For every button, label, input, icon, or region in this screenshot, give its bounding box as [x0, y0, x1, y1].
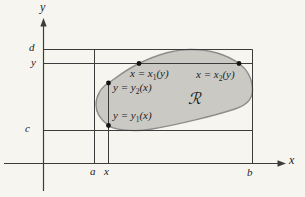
- point-y1-of-x: [106, 123, 111, 128]
- y-axis-label: y: [40, 1, 45, 13]
- region-symbol-label: ℛ: [188, 93, 201, 105]
- tick-label-d: d: [29, 41, 35, 53]
- point-x1-of-y: [137, 61, 142, 66]
- tick-label-b: b: [247, 166, 253, 178]
- tick-label-c: c: [25, 122, 30, 134]
- point-x2-of-y: [237, 61, 242, 66]
- curve-label-y2: y = y2(x): [113, 81, 152, 98]
- x-axis-label: x: [289, 154, 294, 166]
- curve-label-y1: y = y1(x): [113, 109, 152, 126]
- curve-label-x2: x = x2(y): [196, 68, 235, 85]
- x-axis-arrowhead: [278, 160, 287, 166]
- tick-label-x: x: [104, 165, 109, 177]
- figure-region-between-curves: y x d y c a x b x = x1(y) x = x2(y) y = …: [0, 0, 305, 197]
- diagram-canvas: [0, 0, 305, 197]
- y-axis-arrowhead: [40, 18, 46, 27]
- tick-label-a: a: [90, 165, 96, 177]
- tick-label-y: y: [31, 56, 36, 68]
- point-y2-of-x: [106, 81, 111, 86]
